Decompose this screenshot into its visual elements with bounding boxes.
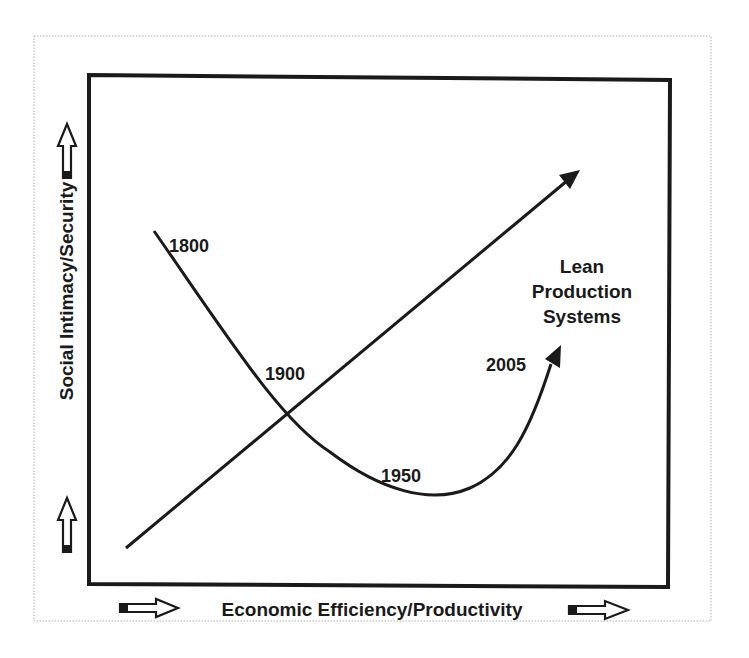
lean-label-line2: Production (532, 281, 632, 302)
x-axis-arrow-right-icon (569, 601, 628, 619)
lean-label-line1: Lean (560, 256, 604, 277)
plot-box (89, 75, 670, 587)
y-axis-label: Social Intimacy/Security (56, 181, 77, 400)
y-axis-arrow-top-icon (58, 124, 76, 178)
outer-dotted-frame (34, 36, 711, 621)
label-1950: 1950 (381, 466, 421, 486)
label-1900: 1900 (265, 364, 305, 384)
label-1800: 1800 (169, 236, 209, 256)
history-curve-arrowhead-icon (545, 345, 561, 368)
y-axis-arrow-bottom-icon (58, 498, 76, 552)
label-2005: 2005 (486, 355, 526, 375)
lean-label-line3: Systems (543, 306, 621, 327)
x-axis-arrow-left-icon (120, 599, 178, 617)
x-axis-label: Economic Efficiency/Productivity (222, 599, 523, 620)
diagram-canvas: Social Intimacy/Security Economic Effici… (0, 0, 749, 658)
